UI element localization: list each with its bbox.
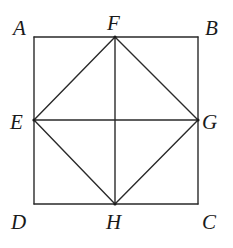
geometry-diagram: A F B E G D H C [0, 0, 233, 248]
segment-HE [34, 120, 115, 204]
label-E: E [9, 110, 23, 134]
dot-F [113, 35, 116, 38]
label-B: B [205, 16, 218, 40]
segment-FG [115, 37, 198, 120]
midlines [34, 37, 198, 204]
segment-EF [34, 37, 115, 120]
dot-H [113, 202, 116, 205]
segment-GH [115, 120, 198, 204]
label-A: A [11, 16, 26, 40]
dot-E [32, 118, 35, 121]
label-D: D [10, 210, 26, 234]
label-F: F [106, 11, 120, 35]
label-G: G [202, 110, 217, 134]
dot-G [196, 118, 199, 121]
point-labels: A F B E G D H C [9, 11, 218, 234]
label-C: C [202, 210, 217, 234]
label-H: H [105, 210, 123, 234]
